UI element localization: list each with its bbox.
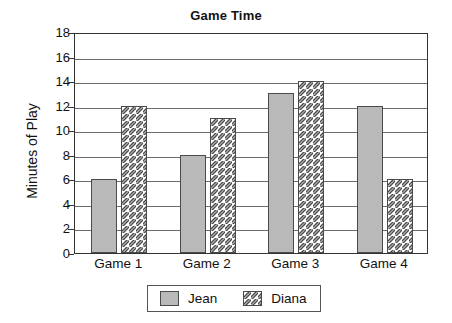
bar-jean-1 [91,179,117,253]
gridline [75,83,427,84]
legend-label-diana: Diana [271,291,306,306]
x-tick-label-game-4: Game 4 [339,256,429,271]
y-tick-label: 2 [44,222,70,235]
bar-diana-4 [387,179,413,253]
legend-item-jean: Jean [160,286,217,311]
y-tick-label: 6 [44,173,70,186]
bar-diana-3 [298,81,324,253]
y-tick-label: 10 [44,124,70,137]
legend-swatch-jean-icon [160,291,179,306]
bar-diana-1 [121,106,147,253]
y-tick-label: 12 [44,100,70,113]
chart-legend: Jean Diana [147,285,321,312]
legend-item-diana: Diana [243,286,306,311]
y-tick-label: 8 [44,149,70,162]
y-tick-label: 14 [44,75,70,88]
y-tick-label: 0 [44,247,70,260]
bar-jean-3 [268,93,294,253]
y-axis-title: Minutes of Play [24,56,40,246]
bar-chart: Game Time Minutes of Play 18161412108642… [0,0,452,323]
gridline [75,59,427,60]
legend-swatch-diana-icon [243,291,262,306]
x-tick-label-game-3: Game 3 [250,256,340,271]
x-tick-label-game-2: Game 2 [162,256,252,271]
y-tick-label: 18 [44,26,70,39]
y-tick-label: 4 [44,198,70,211]
bar-jean-4 [357,106,383,253]
x-tick-label-game-1: Game 1 [73,256,163,271]
y-tick-mark [68,254,74,255]
bar-diana-2 [210,118,236,253]
bar-jean-2 [180,155,206,253]
plot-area [74,33,428,254]
y-tick-label: 16 [44,51,70,64]
chart-title: Game Time [0,8,452,23]
legend-label-jean: Jean [188,291,217,306]
